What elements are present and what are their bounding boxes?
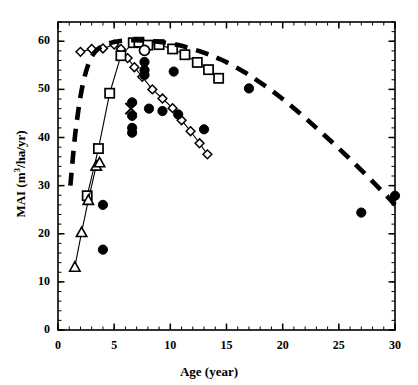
marker-open-square <box>105 89 114 98</box>
x-tick-label: 10 <box>155 338 185 353</box>
x-tick-label: 30 <box>380 338 410 353</box>
marker-open-circle <box>139 45 149 55</box>
marker-filled-circle <box>128 111 137 120</box>
x-tick-label: 5 <box>99 338 129 353</box>
marker-filled-circle <box>144 104 153 113</box>
marker-filled-circle <box>128 98 137 107</box>
x-axis-title: Age (year) <box>0 364 418 380</box>
marker-filled-circle <box>140 70 149 79</box>
plot-frame <box>58 22 395 330</box>
marker-open-square <box>116 51 125 60</box>
marker-filled-circle <box>98 200 107 209</box>
marker-filled-circle <box>98 245 107 254</box>
chart-figure: 0102030405060 051015202530 MAI (m3/ha/yr… <box>0 0 418 385</box>
marker-open-square <box>180 50 189 59</box>
y-tick-label: 60 <box>24 33 50 48</box>
marker-filled-circle <box>199 125 208 134</box>
x-tick-label: 0 <box>43 338 73 353</box>
marker-open-square <box>204 65 213 74</box>
marker-open-square <box>193 58 202 67</box>
marker-open-square <box>214 74 223 83</box>
marker-open-square <box>94 144 103 153</box>
marker-filled-circle <box>128 128 137 137</box>
series-open-circle-point <box>139 45 149 55</box>
x-tick-label: 15 <box>212 338 242 353</box>
x-tick-label: 20 <box>268 338 298 353</box>
mai-vs-age-scatter-plot <box>0 0 418 385</box>
y-axis-title: MAI (m3/ha/yr) <box>12 130 29 217</box>
y-tick-label: 0 <box>24 322 50 337</box>
marker-filled-circle <box>174 110 183 119</box>
x-tick-label: 25 <box>324 338 354 353</box>
marker-filled-circle <box>244 84 253 93</box>
marker-filled-circle <box>357 208 366 217</box>
y-tick-label: 10 <box>24 274 50 289</box>
marker-filled-circle <box>158 106 167 115</box>
marker-filled-circle <box>169 67 178 76</box>
y-axis-title-wrap: MAI (m3/ha/yr) <box>11 74 29 274</box>
